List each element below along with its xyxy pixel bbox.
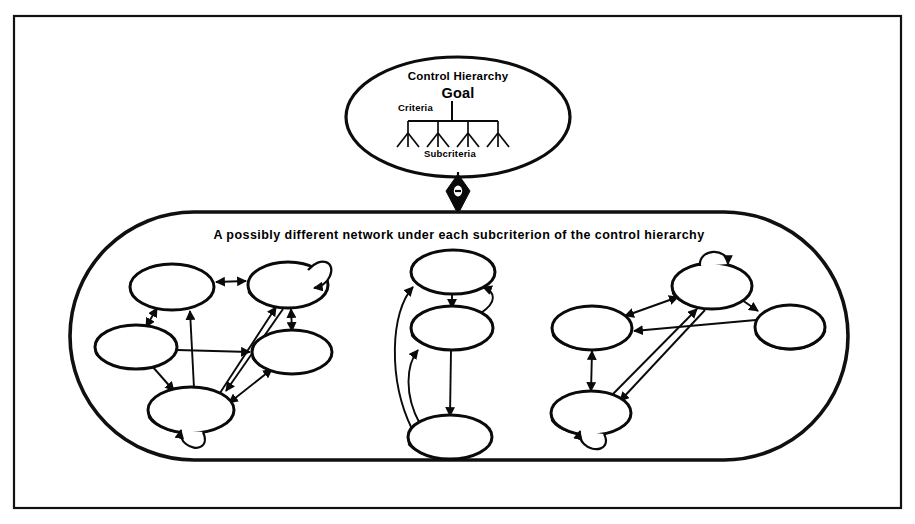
node-M2[interactable] bbox=[411, 306, 493, 350]
hierarchy-subcriteria-label: Subcriteria bbox=[424, 148, 476, 159]
node-M3[interactable] bbox=[408, 415, 492, 459]
edge-M2-M3 bbox=[450, 350, 451, 416]
node-L1[interactable] bbox=[130, 264, 214, 310]
node-R3[interactable] bbox=[755, 305, 825, 349]
control-hierarchy-network-diagram: Control Hierarchy Goal Criteria Subcrite… bbox=[0, 0, 915, 524]
node-L3[interactable] bbox=[95, 325, 177, 369]
control-hierarchy-group: Control Hierarchy Goal Criteria Subcrite… bbox=[346, 57, 570, 177]
hierarchy-title: Control Hierarchy bbox=[408, 70, 509, 82]
node-L5[interactable] bbox=[148, 387, 234, 433]
edge-R2-R4 bbox=[591, 351, 592, 391]
node-R2[interactable] bbox=[552, 306, 632, 350]
edge-L2-L4 bbox=[291, 309, 292, 331]
network-container-caption: A possibly different network under each … bbox=[213, 228, 704, 242]
hierarchy-criteria-label: Criteria bbox=[398, 102, 433, 113]
node-M1[interactable] bbox=[411, 250, 495, 294]
self-loop-R1 bbox=[700, 252, 728, 266]
node-R1[interactable] bbox=[672, 263, 752, 309]
edge-L1-L2 bbox=[216, 281, 246, 282]
node-L4[interactable] bbox=[252, 330, 332, 374]
hierarchy-goal-label: Goal bbox=[441, 85, 474, 101]
node-R4[interactable] bbox=[551, 391, 631, 435]
figure-root: Control Hierarchy Goal Criteria Subcrite… bbox=[0, 0, 915, 524]
